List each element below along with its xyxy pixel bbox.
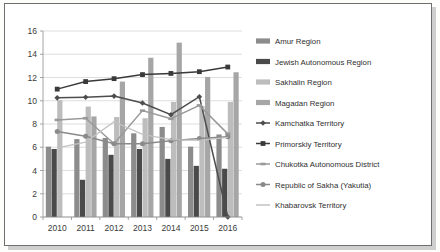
bar-amur-region xyxy=(131,133,136,217)
bar-sakhalin-region xyxy=(57,100,62,217)
x-tick-label: 2011 xyxy=(77,223,96,233)
bar-jewish-autonomous-region xyxy=(137,149,142,217)
x-tick-label: 2015 xyxy=(190,223,209,233)
bar-magadan-region xyxy=(91,116,96,217)
bar-amur-region xyxy=(74,139,79,217)
bar-sakhalin-region xyxy=(143,118,148,217)
legend-label: Magadan Region xyxy=(275,99,334,108)
x-axis: 2010201120122013201420152016 xyxy=(43,217,242,233)
line-primorskiy-territory xyxy=(57,67,228,89)
marker-square xyxy=(169,71,174,76)
marker-circle xyxy=(140,141,145,146)
chart-legend: Amur RegionJewish Autonomous RegionSakha… xyxy=(256,37,380,210)
legend-item-kamchatka-territory[interactable]: Kamchatka Territory xyxy=(256,119,344,128)
marker-square xyxy=(197,69,202,74)
marker-circle xyxy=(225,134,230,139)
bar-jewish-autonomous-region xyxy=(194,166,199,217)
bar-magadan-region xyxy=(205,77,210,217)
bar-magadan-region xyxy=(177,43,182,217)
screenshot-page: 0246810121416 20102011201220132014201520… xyxy=(0,0,440,252)
legend-item-primorskiy-territory[interactable]: Primorskiy Territory xyxy=(256,140,342,149)
marker-diamond xyxy=(140,100,146,106)
marker-diamond xyxy=(83,94,89,100)
y-axis: 0246810121416 xyxy=(28,26,43,222)
y-tick-label: 14 xyxy=(28,49,38,59)
legend-item-jewish-autonomous-region[interactable]: Jewish Autonomous Region xyxy=(256,58,371,67)
marker-square xyxy=(55,87,60,92)
bar-jewish-autonomous-region xyxy=(108,155,113,217)
legend-item-amur-region[interactable]: Amur Region xyxy=(256,37,321,46)
marker-dash xyxy=(140,109,145,112)
bar-jewish-autonomous-region xyxy=(80,180,85,217)
legend-marker-diamond-icon xyxy=(260,120,266,126)
bar-magadan-region xyxy=(148,58,153,217)
marker-square xyxy=(112,76,117,81)
legend-label: Khabarovsk Territory xyxy=(275,201,346,210)
bar-jewish-autonomous-region xyxy=(52,149,57,217)
legend-item-republic-of-sakha-yakutia-[interactable]: Republic of Sakha (Yakutia) xyxy=(256,181,371,190)
bar-magadan-region xyxy=(120,82,125,217)
marker-circle xyxy=(83,134,88,139)
y-tick-label: 10 xyxy=(28,96,38,106)
plot-bars xyxy=(46,43,239,217)
legend-label: Primorskiy Territory xyxy=(275,140,342,149)
bar-jewish-autonomous-region xyxy=(165,159,170,217)
marker-square xyxy=(225,65,230,70)
legend-label: Sakhalin Region xyxy=(275,78,332,87)
legend-marker-square-icon xyxy=(261,141,266,146)
legend-marker-dash-icon xyxy=(260,163,265,166)
bar-amur-region xyxy=(216,134,221,217)
chart-figure: 0246810121416 20102011201220132014201520… xyxy=(4,3,432,246)
legend-item-chukotka-autonomous-district[interactable]: Chukotka Autonomous District xyxy=(256,160,380,169)
x-tick-label: 2016 xyxy=(218,223,237,233)
marker-dash xyxy=(197,104,202,107)
legend-label: Amur Region xyxy=(275,37,321,46)
bar-amur-region xyxy=(46,147,51,217)
legend-label: Republic of Sakha (Yakutia) xyxy=(275,181,371,190)
legend-label: Jewish Autonomous Region xyxy=(275,58,371,67)
x-tick-label: 2013 xyxy=(133,223,152,233)
y-tick-label: 8 xyxy=(32,119,37,129)
marker-dash xyxy=(55,119,60,122)
marker-circle xyxy=(55,129,60,134)
y-tick-label: 0 xyxy=(32,212,37,222)
y-tick-label: 2 xyxy=(32,189,37,199)
bar-sakhalin-region xyxy=(199,106,204,217)
marker-circle xyxy=(112,141,117,146)
legend-swatch-icon xyxy=(256,59,270,64)
x-tick-label: 2010 xyxy=(48,223,67,233)
legend-swatch-icon xyxy=(256,100,270,105)
y-tick-label: 16 xyxy=(28,26,38,36)
x-tick-label: 2014 xyxy=(161,223,180,233)
bar-magadan-region xyxy=(233,72,238,217)
legend-label: Chukotka Autonomous District xyxy=(275,160,380,169)
x-tick-label: 2012 xyxy=(105,223,124,233)
bar-amur-region xyxy=(103,138,108,217)
bar-amur-region xyxy=(160,127,165,217)
legend-swatch-icon xyxy=(256,79,270,84)
y-tick-label: 6 xyxy=(32,142,37,152)
legend-item-magadan-region[interactable]: Magadan Region xyxy=(256,99,334,108)
legend-label: Kamchatka Territory xyxy=(275,119,344,128)
legend-swatch-icon xyxy=(256,38,270,43)
bar-amur-region xyxy=(188,147,193,217)
y-tick-label: 4 xyxy=(32,166,37,176)
marker-square xyxy=(83,79,88,84)
marker-dash xyxy=(168,117,173,120)
legend-item-khabarovsk-territory[interactable]: Khabarovsk Territory xyxy=(256,201,346,210)
marker-diamond xyxy=(111,93,117,99)
marker-dash xyxy=(83,117,88,120)
bar-sakhalin-region xyxy=(228,102,233,217)
y-tick-label: 12 xyxy=(28,73,38,83)
marker-square xyxy=(140,72,145,77)
legend-item-sakhalin-region[interactable]: Sakhalin Region xyxy=(256,78,332,87)
marker-diamond xyxy=(54,95,60,101)
legend-marker-circle-icon xyxy=(261,182,266,187)
bar-sakhalin-region xyxy=(114,117,119,217)
